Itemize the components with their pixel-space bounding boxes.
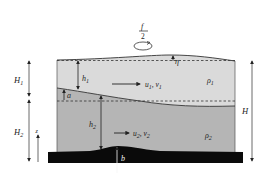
b-label: b xyxy=(121,154,125,163)
H-label: H xyxy=(241,106,249,116)
rotation-numerator: f xyxy=(141,22,145,31)
two-layer-fluid-diagram: f 2 η h1 a h2 b u1, v1 u2, v2 ρ1 ρ2 H1 H… xyxy=(0,0,267,173)
z-label: z xyxy=(35,128,39,134)
rotation-denominator: 2 xyxy=(141,32,145,41)
a-label: a xyxy=(67,91,71,100)
H2-label: H2 xyxy=(13,127,23,138)
rotation-arrow-icon xyxy=(134,42,152,51)
H1-label: H1 xyxy=(13,75,23,86)
h2-sub: 2 xyxy=(93,124,96,130)
eta-label: η xyxy=(175,57,179,66)
h1-sub: 1 xyxy=(86,78,89,84)
